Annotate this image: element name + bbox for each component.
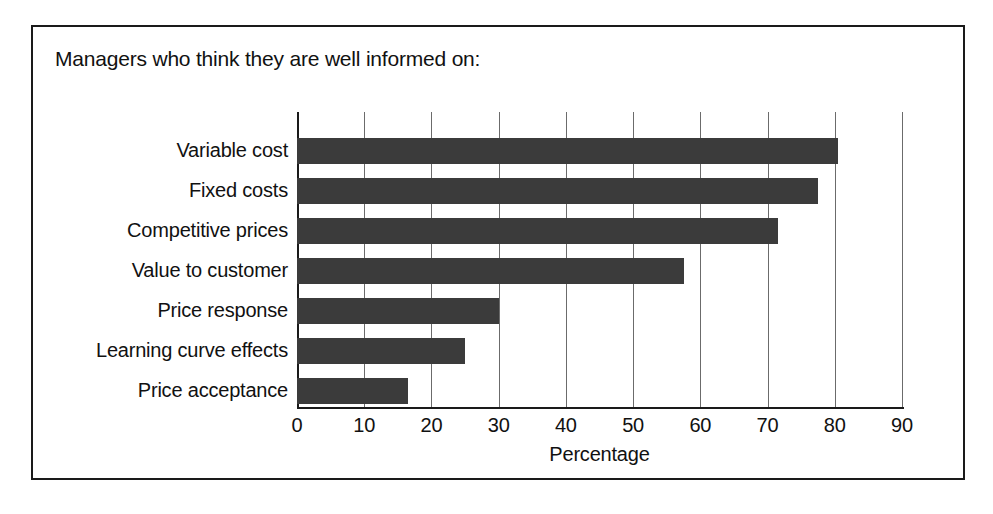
- bar: [297, 178, 818, 204]
- bar-category-label: Variable cost: [176, 137, 288, 164]
- x-tick-label: 10: [353, 414, 375, 437]
- bar-category-label: Value to customer: [132, 257, 288, 284]
- bar-category-label: Fixed costs: [189, 177, 288, 204]
- bar-row: Learning curve effects: [297, 337, 902, 377]
- chart-figure-frame: Managers who think they are well informe…: [31, 25, 965, 480]
- x-tick-label: 90: [891, 414, 913, 437]
- x-tick-label: 80: [824, 414, 846, 437]
- bar: [297, 258, 684, 284]
- bar-row: Fixed costs: [297, 177, 902, 217]
- x-axis-line: [297, 407, 904, 409]
- bar-category-label: Price response: [157, 297, 288, 324]
- bar-series: Variable costFixed costsCompetitive pric…: [297, 112, 902, 407]
- gridline: [902, 112, 903, 407]
- x-tick-label: 70: [757, 414, 779, 437]
- x-tick-label: 20: [421, 414, 443, 437]
- bar-row: Price response: [297, 297, 902, 337]
- bar-category-label: Competitive prices: [127, 217, 288, 244]
- bar-row: Competitive prices: [297, 217, 902, 257]
- bar-category-label: Price acceptance: [138, 377, 288, 404]
- bar: [297, 138, 838, 164]
- bar: [297, 338, 465, 364]
- bar: [297, 298, 499, 324]
- bar-row: Variable cost: [297, 137, 902, 177]
- chart-title: Managers who think they are well informe…: [55, 47, 480, 71]
- x-axis-ticks: 0102030405060708090: [297, 411, 902, 441]
- x-axis-title: Percentage: [297, 443, 902, 466]
- x-tick-label: 30: [488, 414, 510, 437]
- x-tick-label: 60: [689, 414, 711, 437]
- bar-row: Value to customer: [297, 257, 902, 297]
- bar: [297, 378, 408, 404]
- x-tick-label: 40: [555, 414, 577, 437]
- bar-category-label: Learning curve effects: [96, 337, 288, 364]
- plot-area: Variable costFixed costsCompetitive pric…: [297, 112, 902, 407]
- x-tick-label: 0: [292, 414, 303, 437]
- bar: [297, 218, 778, 244]
- x-tick-label: 50: [622, 414, 644, 437]
